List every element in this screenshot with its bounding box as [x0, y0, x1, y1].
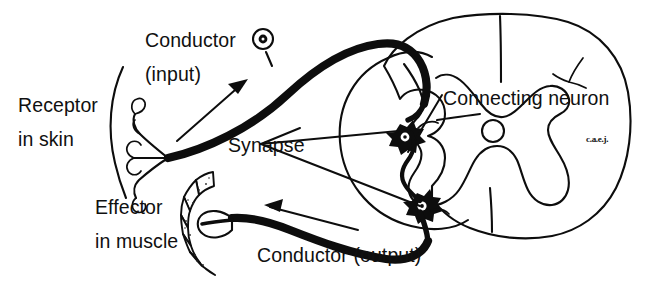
- label-conductor-input-line2: (input): [145, 63, 201, 85]
- reflex-arc-diagram: Conductor (input) Receptor in skin Synap…: [0, 0, 645, 301]
- label-conductor-input-line1: Conductor: [145, 29, 236, 51]
- label-effector-line1: Effector: [95, 196, 163, 218]
- label-synapse: Synapse: [228, 134, 305, 156]
- label-connecting-neuron: Connecting neuron: [443, 87, 610, 109]
- label-receptor-line1: Receptor: [18, 94, 98, 116]
- artist-signature: c.a.e.j.: [586, 134, 608, 144]
- label-effector-line2: in muscle: [95, 230, 178, 252]
- striated-muscle-effector: [181, 172, 232, 275]
- label-receptor-line2: in skin: [18, 128, 74, 150]
- sensory-receptor-endings: [111, 67, 168, 212]
- dorsal-root-ganglion: [253, 29, 273, 66]
- central-canal: [482, 120, 504, 142]
- reflex-arc-figure: Conductor (input) Receptor in skin Synap…: [0, 0, 645, 301]
- label-conductor-output: Conductor (output): [257, 244, 421, 266]
- skin-surface-arc: [111, 67, 126, 198]
